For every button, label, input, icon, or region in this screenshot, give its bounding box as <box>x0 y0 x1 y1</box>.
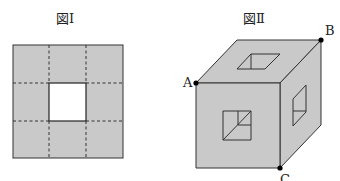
figure-1-square-net <box>13 45 123 158</box>
point-c-dot <box>277 165 282 170</box>
point-c-label: C <box>280 173 290 181</box>
figure-2-cube <box>196 40 321 168</box>
point-b-label: B <box>325 24 335 37</box>
point-a-dot <box>193 80 198 85</box>
figure-1-center-hole <box>49 83 86 121</box>
figures-canvas <box>0 0 340 181</box>
point-b-dot <box>318 37 323 42</box>
point-a-label: A <box>183 76 192 89</box>
